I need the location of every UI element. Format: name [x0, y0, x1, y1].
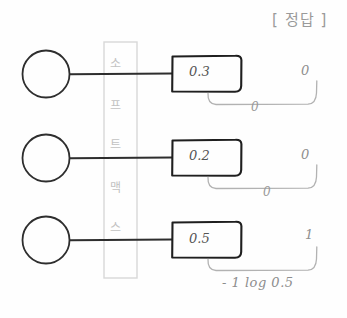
target-value-1: 0 [301, 63, 309, 78]
softmax-column-char-1: 프 [110, 96, 121, 113]
connector-line-3 [70, 240, 172, 241]
softmax-column-char-2: 트 [110, 135, 121, 152]
sketch-canvas: [ 정답 ] 소 프 트 맥 스 0.3 0.2 0.5 0 0 1 0 0 -… [0, 0, 347, 318]
connector-line-1 [70, 74, 172, 75]
output-value-2: 0.2 [189, 148, 210, 163]
softmax-column-char-3: 맥 [110, 178, 121, 195]
brace-label-2: 0 [263, 185, 271, 199]
softmax-column-char-4: 스 [110, 218, 121, 235]
diagram-drawing-layer [0, 0, 347, 318]
page-title: [ 정답 ] [272, 8, 327, 29]
neuron-circle-2 [23, 135, 70, 182]
neuron-circle-1 [23, 51, 70, 98]
connector-line-2 [70, 158, 172, 159]
output-value-3: 0.5 [189, 231, 210, 246]
brace-label-1: 0 [251, 100, 259, 114]
softmax-column-box [104, 42, 137, 278]
output-value-1: 0.3 [189, 64, 210, 79]
target-value-2: 0 [301, 147, 309, 162]
target-value-3: 1 [305, 227, 313, 242]
loss-formula: - 1 log 0.5 [222, 275, 294, 290]
softmax-column-char-0: 소 [110, 54, 121, 71]
neuron-circle-3 [23, 217, 70, 264]
